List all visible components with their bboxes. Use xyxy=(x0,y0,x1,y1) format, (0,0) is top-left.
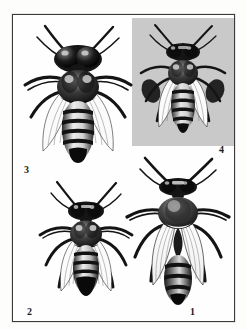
bee-illustration-worker xyxy=(37,179,135,303)
figure-label-4: 4 xyxy=(219,145,224,155)
bee-illustration-queen xyxy=(125,155,231,305)
bee-illustration-drone xyxy=(19,19,137,165)
plate-frame: 3 4 2 1 xyxy=(12,14,235,322)
plate-root: 3 4 2 1 xyxy=(0,0,247,330)
figure-label-2: 2 xyxy=(27,307,32,317)
bee-illustration-worker-inset xyxy=(137,21,229,141)
figure-label-1: 1 xyxy=(190,307,195,317)
figure-label-3: 3 xyxy=(24,165,29,175)
